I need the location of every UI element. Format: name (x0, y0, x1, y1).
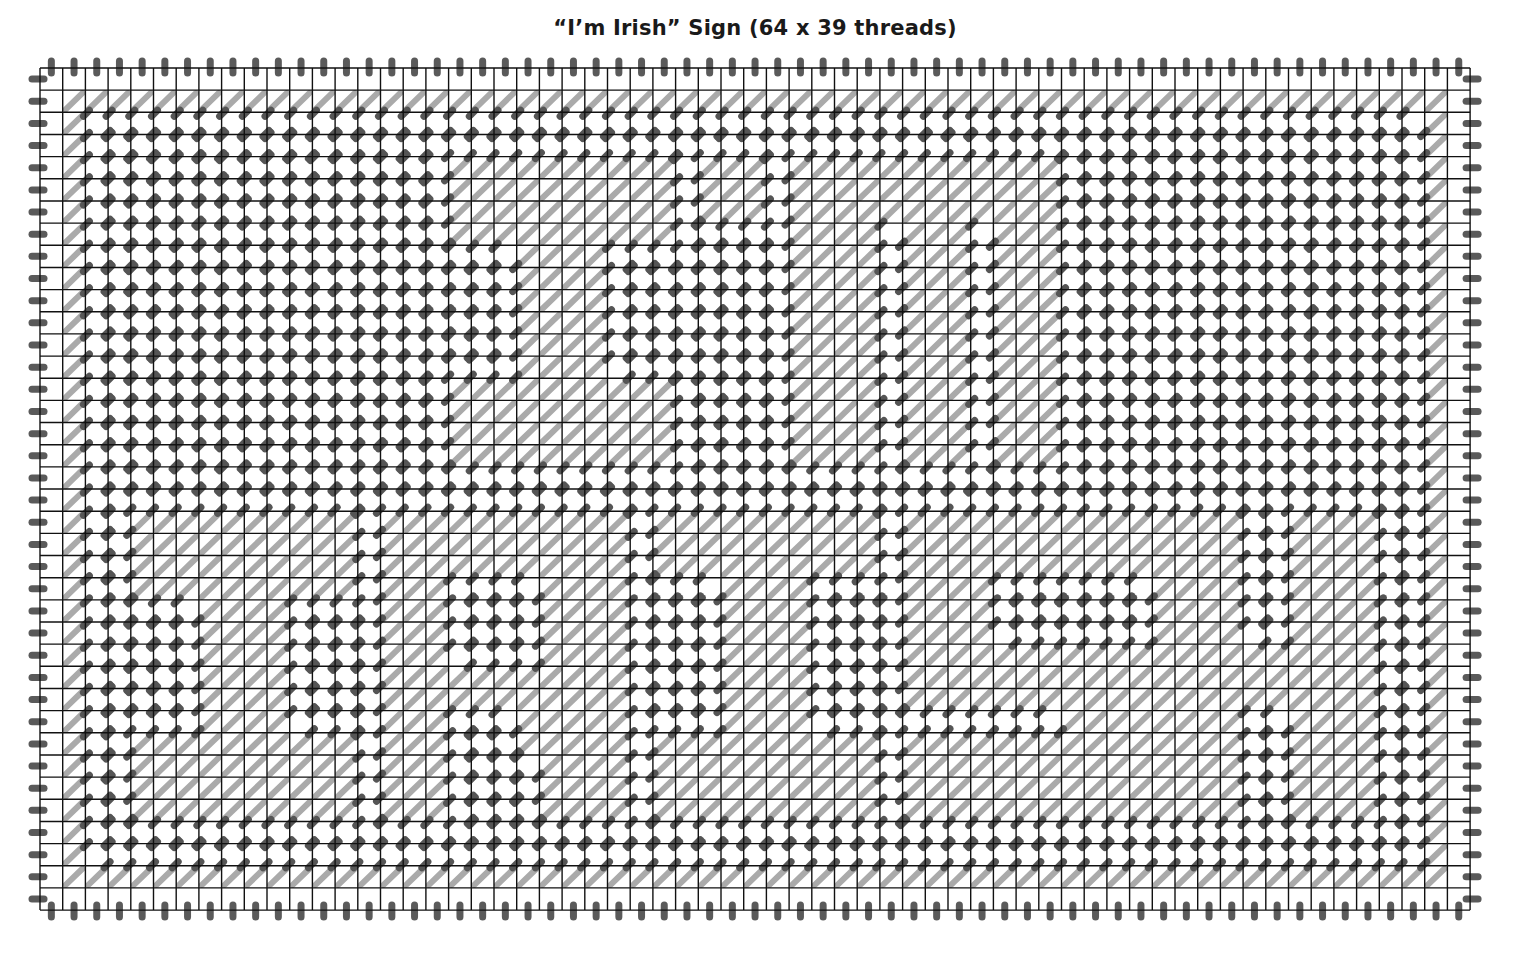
canvas-grid (40, 68, 1470, 910)
plastic-canvas-chart (0, 0, 1539, 965)
